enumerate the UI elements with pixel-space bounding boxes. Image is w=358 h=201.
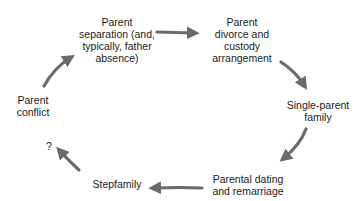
node-parent-conflict: Parent conflict: [12, 94, 54, 118]
node-line: Parental dating: [206, 173, 290, 185]
node-parental-dating: Parental dating and remarriage: [206, 173, 290, 197]
node-line: Parent: [12, 94, 54, 106]
arrow-divorce-to-single-parent: [281, 62, 304, 85]
node-stepfamily: Stepfamily: [86, 178, 148, 190]
node-line: typically, father: [74, 40, 160, 52]
node-line: Stepfamily: [86, 178, 148, 190]
node-line: Single-parent: [280, 99, 356, 111]
node-line: conflict: [12, 106, 54, 118]
arrow-separation-to-divorce: [157, 32, 194, 33]
node-line: family: [280, 111, 356, 123]
node-line: ?: [44, 140, 54, 152]
node-parent-separation: Parent separation (and, typically, fathe…: [74, 16, 160, 64]
arrow-dating-to-stepfamily: [154, 188, 202, 189]
arrow-conflict-to-separation: [44, 58, 70, 86]
node-unknown: ?: [44, 140, 54, 152]
node-parent-divorce: Parent divorce and custody arrangement: [209, 16, 275, 64]
node-line: arrangement: [209, 52, 275, 64]
arrow-stepfamily-to-unknown: [60, 151, 79, 170]
node-single-parent-family: Single-parent family: [280, 99, 356, 123]
arrow-single-parent-to-dating: [284, 129, 306, 158]
node-line: custody: [209, 40, 275, 52]
node-line: divorce and: [209, 28, 275, 40]
node-line: Parent: [209, 16, 275, 28]
node-line: Parent: [74, 16, 160, 28]
node-line: absence): [74, 52, 160, 64]
node-line: separation (and,: [74, 28, 160, 40]
node-line: and remarriage: [206, 185, 290, 197]
